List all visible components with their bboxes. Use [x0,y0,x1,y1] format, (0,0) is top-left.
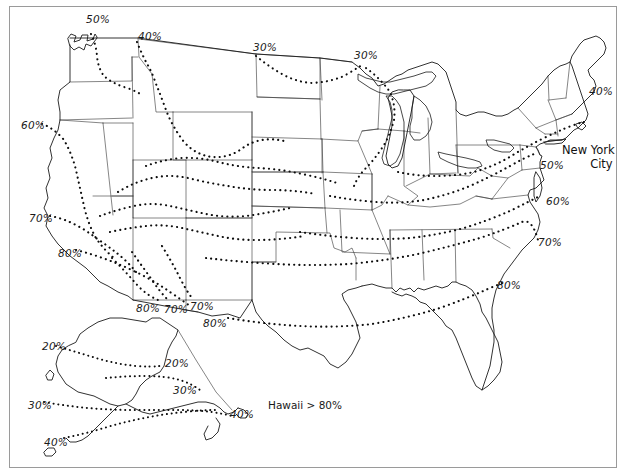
contour-50-interior [118,176,316,194]
contour-ak-40 [64,410,218,438]
state-borders-layer [60,38,572,312]
coastline-layer [44,34,606,390]
new-york-city-label-line1: New York [562,143,615,157]
contour-label-40-north: 40% [138,31,162,42]
contour-label-80-southwest: 80% [58,248,82,259]
contour-30-north-1 [256,56,362,83]
contour-label-80-south-b: 80% [203,318,227,329]
contour-label-50-nw: 50% [86,14,110,25]
contour-40-interior [146,158,340,184]
map-figure: 50% 40% 30% 30% 40% 60% 50% 60% 70% 70% … [0,0,634,475]
contour-80-south [228,282,504,327]
contour-label-70-east: 70% [538,237,562,248]
contour-label-ak-40-west: 40% [44,437,68,448]
contour-label-ak-30-east: 30% [173,385,197,396]
contour-40-north [137,42,288,157]
contour-label-70-south-a: 70% [164,304,188,315]
contour-70-interior-a [110,225,304,240]
contour-60-west [42,124,114,258]
contour-label-70-south-b: 70% [190,301,214,312]
contour-label-80-southeast: 80% [497,280,521,291]
contour-label-50-nyc: 50% [540,160,564,171]
contour-ak-30b [44,402,232,416]
contour-label-ak-20-east: 20% [165,358,189,369]
alaska-layer [44,318,248,456]
contour-60-east [300,196,540,239]
new-york-city-label: New York City [562,144,615,171]
contour-label-60-east: 60% [546,196,570,207]
contour-ak-20 [56,346,160,367]
contour-label-80-south-a: 80% [136,303,160,314]
new-york-city-label-line2: City [562,158,615,172]
contour-70-interior-c [132,252,168,300]
contour-50-nw [91,34,142,95]
contour-label-ak-30-west: 30% [28,400,52,411]
contour-30-east [354,68,395,186]
contour-label-ak-40-east: 40% [230,409,254,420]
contour-60-interior [100,204,290,217]
contour-label-30-north-2: 30% [354,50,378,61]
contour-label-60-west: 60% [21,120,45,131]
contour-label-ak-20-west: 20% [42,341,66,352]
hawaii-note-label: Hawaii > 80% [268,399,342,411]
contour-label-70-west: 70% [29,213,53,224]
contour-label-30-north-1: 30% [253,42,277,53]
contour-70-west [50,216,136,272]
contour-70-east [206,221,538,265]
contour-50-east [330,154,534,203]
contour-label-40-northeast: 40% [589,86,613,97]
contour-70-interior-b [112,258,158,300]
